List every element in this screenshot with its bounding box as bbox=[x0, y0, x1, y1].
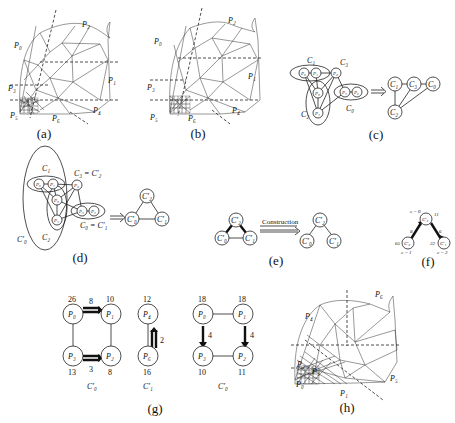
caption-c: (c) bbox=[369, 127, 383, 142]
label-p5-h: P₅ bbox=[389, 374, 398, 383]
group-g2-label: C'₁ bbox=[143, 382, 153, 391]
node-g1-p0: P₀ bbox=[67, 310, 76, 319]
label-p0-a: P₀ bbox=[13, 41, 22, 50]
svg-text:P₂: P₂ bbox=[73, 183, 79, 188]
label-p6-a: P₆ bbox=[51, 114, 60, 123]
cluster-label-d-c2: C₂ bbox=[42, 233, 50, 242]
caption-g: (g) bbox=[147, 401, 162, 416]
load-g1-p0: 26 bbox=[68, 295, 76, 304]
panel-a-mesh bbox=[10, 10, 118, 124]
label-p0-b: P₀ bbox=[153, 37, 162, 46]
label-p1-a: P₁ bbox=[107, 76, 116, 85]
node-e-left-c0: C'₀ bbox=[217, 234, 227, 243]
label-p4-b: P₄ bbox=[231, 106, 240, 115]
node-g3-p2: P₂ bbox=[237, 352, 246, 361]
flow-g3-right: 4 bbox=[250, 331, 254, 340]
cluster-label-c1: C₁ bbox=[307, 56, 315, 65]
label-p6-h: P₆ bbox=[374, 290, 383, 299]
flow-g1-bottom: 3 bbox=[89, 365, 93, 374]
panel-c-graph: P₀ P₁ P₂ P₃ P₄ P₅ P₆ bbox=[290, 65, 440, 125]
node-e-right-c0: C'₀ bbox=[302, 237, 312, 246]
label-p4-a: P₄ bbox=[92, 106, 101, 115]
cluster-label-d-c1: C₁ bbox=[42, 164, 50, 173]
load-g1-p1: 10 bbox=[106, 295, 114, 304]
caption-d: (d) bbox=[72, 250, 87, 265]
node-g2-p4: P₄ bbox=[142, 310, 151, 319]
label-p5-a: P₅ bbox=[9, 111, 18, 120]
svg-text:P₀: P₀ bbox=[35, 182, 41, 187]
annot-f-c1: c = 2 bbox=[437, 250, 448, 255]
group-g1-label: C'₀ bbox=[87, 382, 97, 391]
caption-a: (a) bbox=[37, 126, 51, 141]
result-node-d-c2: C'₂ bbox=[142, 192, 152, 201]
label-p1-b: P₁ bbox=[247, 72, 256, 81]
construction-label: Construction bbox=[262, 218, 299, 226]
node-g3-p0: P₀ bbox=[197, 310, 206, 319]
load-g3-p0: 18 bbox=[198, 295, 206, 304]
caption-b: (b) bbox=[190, 126, 205, 141]
caption-h: (h) bbox=[339, 400, 354, 415]
load-g2-p6: 16 bbox=[143, 368, 151, 377]
label-p1-h: P₁ bbox=[339, 389, 348, 398]
label-p5-b: P₅ bbox=[149, 113, 158, 122]
annot-f-c0: c = 1 bbox=[401, 250, 412, 255]
load-f-c2: 11 bbox=[434, 212, 439, 217]
load-g3-p1: 18 bbox=[238, 295, 246, 304]
label-p3-b: P₃ bbox=[146, 83, 155, 92]
svg-text:P₁: P₁ bbox=[49, 182, 55, 187]
node-g2-p6: P₆ bbox=[142, 352, 151, 361]
load-f-c1: 22 bbox=[430, 241, 436, 246]
load-g1-p2: 8 bbox=[108, 368, 112, 377]
load-g3-p3: 10 bbox=[198, 368, 206, 377]
svg-text:P₆: P₆ bbox=[353, 90, 359, 95]
caption-e: (e) bbox=[269, 253, 283, 268]
load-g2-p4: 12 bbox=[143, 295, 151, 304]
label-p2-h: P₂ bbox=[296, 360, 305, 369]
label-p3-h: P₃ bbox=[311, 367, 320, 376]
node-g1-p3: P₃ bbox=[67, 352, 76, 361]
annot-f-c2: c = 0 bbox=[410, 209, 421, 214]
svg-text:P₄: P₄ bbox=[53, 218, 59, 223]
cluster-label-d-c0: C₀ = C'₁ bbox=[80, 221, 108, 230]
caption-f: (f) bbox=[422, 254, 435, 269]
result-node-c1: C₁ bbox=[390, 80, 398, 89]
label-p2-a: P₂ bbox=[81, 20, 90, 29]
weight-f-left: 8 bbox=[410, 229, 413, 234]
label-p0-h: P₀ bbox=[295, 380, 304, 389]
svg-text:P₃: P₃ bbox=[53, 198, 59, 203]
svg-text:P₂: P₂ bbox=[332, 71, 338, 76]
result-node-c3: C₃ bbox=[409, 80, 417, 89]
label-p4-h: P₄ bbox=[304, 312, 313, 321]
cluster-label-c0: C₀ bbox=[346, 104, 354, 113]
panel-b-mesh bbox=[150, 8, 262, 124]
result-node-d-c1: C'₁ bbox=[157, 215, 167, 224]
result-node-c2: C₂ bbox=[390, 108, 398, 117]
node-e-right-c2: C'₂ bbox=[315, 216, 325, 225]
node-f-c2: C'₂ bbox=[422, 217, 428, 222]
cluster-label-d-c3: C₃ = C'₂ bbox=[74, 169, 102, 178]
flow-g1-top: 8 bbox=[89, 297, 93, 306]
node-e-left-c2: C'₂ bbox=[231, 216, 241, 225]
svg-text:P₀: P₀ bbox=[300, 71, 306, 76]
flow-g2: 2 bbox=[160, 336, 164, 345]
node-e-right-c1: C'₁ bbox=[329, 237, 339, 246]
weight-f-right: 6 bbox=[439, 229, 442, 234]
node-g1-p1: P₁ bbox=[105, 310, 114, 319]
node-e-left-c1: C'₁ bbox=[245, 234, 255, 243]
cluster-label-c2: C₂ bbox=[301, 110, 309, 119]
node-g3-p1: P₁ bbox=[237, 310, 246, 319]
load-f-c0: 65 bbox=[395, 241, 401, 246]
label-p3-a: P₃ bbox=[7, 84, 16, 93]
svg-text:P₅: P₅ bbox=[78, 209, 84, 214]
cluster-label-d-c0prime: C'₀ bbox=[17, 235, 27, 244]
svg-text:P₆: P₆ bbox=[90, 209, 96, 214]
result-node-c0: C₀ bbox=[428, 80, 436, 89]
svg-text:P₃: P₃ bbox=[314, 91, 320, 96]
label-p2-b: P₂ bbox=[227, 16, 236, 25]
load-g1-p3: 13 bbox=[68, 368, 76, 377]
node-f-c1: C'₁ bbox=[440, 241, 446, 246]
flow-g3-left: 4 bbox=[208, 331, 212, 340]
group-g3-label: C'₀ bbox=[218, 382, 228, 391]
panel-h-mesh bbox=[291, 290, 401, 400]
node-g1-p2: P₂ bbox=[105, 352, 114, 361]
